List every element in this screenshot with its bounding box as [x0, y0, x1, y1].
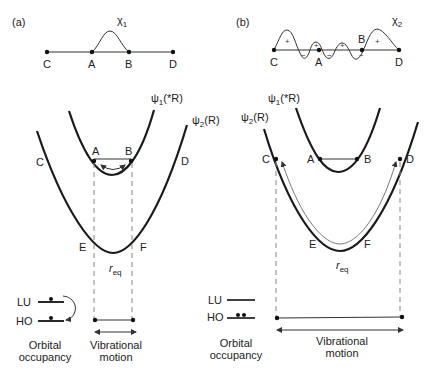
chi1-wavefunction: χ1 C A B D — [43, 14, 177, 70]
panel-a: (a) χ1 C A B D ψ1(*R) ψ2(R) A B C D — [12, 14, 220, 363]
svg-text:F: F — [364, 238, 371, 250]
orbital-occupancy-a: LU HO Orbital occupancy — [16, 296, 75, 363]
point-a — [90, 50, 94, 54]
svg-text:motion: motion — [99, 351, 132, 363]
svg-text:occupancy: occupancy — [19, 351, 72, 363]
svg-text:−: − — [359, 51, 364, 60]
svg-text:Orbital: Orbital — [220, 337, 252, 349]
oscillation-arrow — [101, 165, 125, 170]
svg-text:D: D — [181, 155, 189, 167]
panel-a-label: (a) — [12, 16, 25, 28]
svg-text:+: + — [340, 41, 345, 50]
point-d — [171, 50, 175, 54]
potential-energy-diagram: (a) χ1 C A B D ψ1(*R) ψ2(R) A B C D — [0, 0, 428, 374]
chi2-oscillation — [274, 29, 399, 59]
svg-text:−: − — [327, 51, 332, 60]
svg-text:−: − — [301, 51, 306, 60]
trajectory-arrow — [282, 162, 396, 244]
svg-text:A: A — [92, 145, 100, 157]
svg-text:E: E — [309, 238, 316, 250]
orbital-occupancy-b: LU HO Orbital occupancy — [207, 294, 263, 361]
svg-text:C: C — [43, 58, 51, 70]
panel-b: (b) χ2 C A B D + − + − + − + ψ1(*R) ψ2(R… — [207, 14, 418, 361]
point-c — [45, 50, 49, 54]
svg-text:Orbital: Orbital — [29, 339, 61, 351]
svg-text:occupancy: occupancy — [210, 349, 263, 361]
svg-text:LU: LU — [17, 296, 31, 308]
svg-text:A: A — [88, 58, 96, 70]
psi2-ground-curve-b — [264, 122, 418, 251]
point-c — [272, 48, 276, 52]
svg-text:A: A — [307, 153, 315, 165]
svg-text:χ2: χ2 — [392, 14, 403, 29]
svg-text:B: B — [358, 33, 365, 45]
svg-text:HO: HO — [207, 311, 224, 323]
svg-text:B: B — [125, 58, 132, 70]
chi2-wavefunction: χ2 C A B D + − + − + − + — [270, 14, 403, 68]
svg-text:E: E — [79, 241, 86, 253]
svg-text:+: + — [314, 41, 319, 50]
svg-text:D: D — [169, 58, 177, 70]
svg-text:χ1: χ1 — [117, 14, 128, 29]
psi2-ground-curve-a — [37, 125, 187, 253]
point-d — [397, 48, 401, 52]
svg-text:C: C — [262, 153, 270, 165]
panel-b-label: (b) — [236, 16, 249, 28]
vibrational-motion-b: Vibrational motion — [275, 315, 404, 359]
svg-text:B: B — [364, 153, 371, 165]
svg-text:Vibrational: Vibrational — [316, 335, 368, 347]
svg-text:A: A — [315, 56, 323, 68]
svg-text:LU: LU — [208, 294, 222, 306]
vibrational-motion-a: Vibrational motion — [90, 318, 142, 363]
req-label-a: req — [109, 262, 122, 277]
svg-text:motion: motion — [325, 347, 358, 359]
req-label-b: req — [336, 259, 349, 274]
svg-text:D: D — [406, 153, 414, 165]
svg-text:D: D — [395, 56, 403, 68]
psi1-label-a: ψ1(*R) — [151, 92, 183, 107]
psi2-label-a: ψ2(R) — [192, 114, 220, 129]
svg-text:+: + — [375, 37, 380, 46]
svg-text:+: + — [285, 37, 290, 46]
svg-text:C: C — [36, 156, 44, 168]
psi2-label-b: ψ2(R) — [241, 111, 269, 126]
point-b — [127, 50, 131, 54]
svg-text:Vibrational: Vibrational — [90, 339, 142, 351]
svg-text:C: C — [270, 56, 278, 68]
psi1-excited-curve-a — [69, 110, 154, 175]
psi1-label-b: ψ1(*R) — [268, 92, 300, 107]
svg-text:HO: HO — [16, 315, 33, 327]
svg-text:F: F — [140, 241, 147, 253]
chi1-gaussian — [92, 31, 129, 52]
svg-text:B: B — [125, 145, 132, 157]
